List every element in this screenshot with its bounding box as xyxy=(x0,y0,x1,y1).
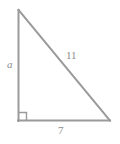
right-angle-marker-icon xyxy=(19,113,27,121)
label-horizontal-leg: 7 xyxy=(58,125,64,136)
label-hypotenuse: 11 xyxy=(66,50,77,61)
label-vertical-leg: a xyxy=(7,59,13,70)
triangle-drawing xyxy=(0,0,120,144)
right-triangle-figure: a 11 7 xyxy=(0,0,120,144)
hypotenuse-line xyxy=(19,10,111,121)
